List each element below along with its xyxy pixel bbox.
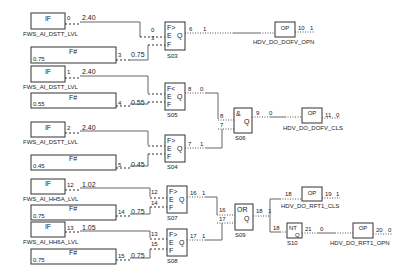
svg-text:F>: F> xyxy=(167,137,175,144)
input-block-fs-14[interactable]: F# 0.75 xyxy=(31,205,116,220)
svg-text:F#: F# xyxy=(69,155,77,162)
svg-text:F#: F# xyxy=(69,94,77,101)
svg-text:7: 7 xyxy=(188,141,192,147)
svg-text:E: E xyxy=(167,32,172,39)
block-label: S03 xyxy=(167,53,178,59)
signal-number: 0 xyxy=(67,15,71,21)
svg-text:15: 15 xyxy=(118,253,125,259)
svg-text:5: 5 xyxy=(118,162,122,168)
block-label: S09 xyxy=(235,232,246,238)
function-block-s08[interactable]: F> E Q F S08 xyxy=(167,229,187,264)
constant-value: 0.55 xyxy=(33,101,45,107)
function-block-s04[interactable]: F> E Q F S04 xyxy=(165,135,185,170)
svg-text:Q: Q xyxy=(177,93,183,101)
svg-text:OR: OR xyxy=(237,206,248,213)
block-label: S08 xyxy=(167,258,178,264)
svg-text:F>: F> xyxy=(167,24,175,31)
svg-text:Q: Q xyxy=(177,145,183,153)
svg-text:IF: IF xyxy=(45,68,51,75)
svg-text:3: 3 xyxy=(151,35,155,41)
svg-text:14: 14 xyxy=(151,200,158,206)
tag-label: FWS_AI_HH5A_LVL xyxy=(23,196,79,202)
svg-text:14: 14 xyxy=(118,209,125,215)
svg-text:1: 1 xyxy=(202,233,206,239)
signal-number: 3 xyxy=(118,52,122,58)
constant-value: 0.75 xyxy=(33,56,45,62)
signal-value: 2.40 xyxy=(82,14,96,21)
svg-text:F: F xyxy=(167,101,171,108)
svg-text:2.40: 2.40 xyxy=(82,124,96,131)
svg-text:10: 10 xyxy=(298,25,305,31)
constant-value: 0.45 xyxy=(33,163,45,169)
svg-text:2.40: 2.40 xyxy=(82,68,96,75)
svg-text:2: 2 xyxy=(67,125,71,131)
output-block-op-11[interactable]: OP HDV_DO_DOFV_CLS xyxy=(283,108,343,131)
svg-text:19: 19 xyxy=(325,191,332,197)
svg-text:7: 7 xyxy=(220,122,224,128)
logic-diagram: IF FWS_AI_DSTT_LVL 0 2.40 F# 0.75 3 0.75… xyxy=(0,0,410,280)
block-label: S05 xyxy=(167,112,178,118)
svg-text:12: 12 xyxy=(67,182,74,188)
svg-text:17: 17 xyxy=(219,216,226,222)
svg-text:18: 18 xyxy=(256,208,263,214)
tag-label: HDV_DO_RFT1_OPN xyxy=(330,240,390,246)
svg-text:OP: OP xyxy=(281,25,290,31)
function-block-s07[interactable]: F> E Q F S07 xyxy=(167,186,187,221)
svg-text:F#: F# xyxy=(69,48,77,55)
svg-text:0: 0 xyxy=(336,112,340,118)
svg-text:0: 0 xyxy=(320,226,324,232)
svg-text:IF: IF xyxy=(45,223,51,230)
svg-text:Q: Q xyxy=(295,232,300,238)
svg-text:Q: Q xyxy=(177,32,183,40)
svg-text:F: F xyxy=(169,204,173,211)
svg-text:E: E xyxy=(169,196,174,203)
block-label: S04 xyxy=(167,164,178,170)
svg-text:&: & xyxy=(236,110,241,117)
svg-text:16: 16 xyxy=(190,190,197,196)
svg-text:OP: OP xyxy=(308,190,317,196)
svg-text:F#: F# xyxy=(69,249,77,256)
svg-text:9: 9 xyxy=(256,110,260,116)
input-block-fs-4[interactable]: F# 0.55 xyxy=(31,93,116,108)
svg-text:15: 15 xyxy=(151,241,158,247)
input-block-fs-5[interactable]: F# 0.45 xyxy=(31,155,116,170)
svg-text:Q: Q xyxy=(244,118,250,126)
svg-text:0: 0 xyxy=(200,86,204,92)
svg-text:IF: IF xyxy=(45,15,51,22)
tag-label: FWS_AI_HH6A_LVL xyxy=(23,239,79,245)
svg-text:1: 1 xyxy=(203,26,207,32)
svg-text:F: F xyxy=(167,41,171,48)
logic-block-s09-or[interactable]: OR Q S09 xyxy=(235,204,253,238)
tag-label: FWS_AI_DSTT_LVL xyxy=(23,139,79,145)
svg-text:18: 18 xyxy=(285,191,292,197)
input-block-fs-15[interactable]: F# 0.75 xyxy=(31,249,116,264)
svg-text:1: 1 xyxy=(202,190,206,196)
output-block-op-10[interactable]: OP HDV_DO_DOFV_OPN xyxy=(253,22,314,45)
svg-text:4: 4 xyxy=(118,100,122,106)
svg-text:1: 1 xyxy=(67,69,71,75)
logic-block-s10-not[interactable]: NT Q S10 xyxy=(287,223,302,246)
function-block-s05[interactable]: F< E Q F S05 xyxy=(165,83,185,118)
svg-text:F<: F< xyxy=(167,85,175,92)
block-label: S06 xyxy=(235,135,246,141)
svg-text:F: F xyxy=(167,153,171,160)
svg-text:F: F xyxy=(169,247,173,254)
tag-label: FWS_AI_DSTT_LVL xyxy=(23,31,79,37)
input-block-fs-3[interactable]: F# 0.75 xyxy=(31,47,116,63)
svg-text:0.55: 0.55 xyxy=(131,99,145,106)
constant-value: 0.75 xyxy=(33,257,45,263)
svg-text:8: 8 xyxy=(220,113,224,119)
svg-text:0: 0 xyxy=(269,110,273,116)
svg-text:6: 6 xyxy=(189,26,193,32)
function-block-s03[interactable]: F> E Q F S03 xyxy=(165,22,185,59)
svg-text:F#: F# xyxy=(69,205,77,212)
svg-text:8: 8 xyxy=(188,86,192,92)
svg-text:OP: OP xyxy=(308,110,317,116)
svg-text:E: E xyxy=(167,145,172,152)
svg-text:13: 13 xyxy=(67,225,74,231)
svg-text:21: 21 xyxy=(305,226,312,232)
svg-text:E: E xyxy=(169,239,174,246)
svg-text:12: 12 xyxy=(151,189,158,195)
logic-block-s06-and[interactable]: & Q S06 xyxy=(234,108,252,141)
svg-text:IF: IF xyxy=(45,180,51,187)
